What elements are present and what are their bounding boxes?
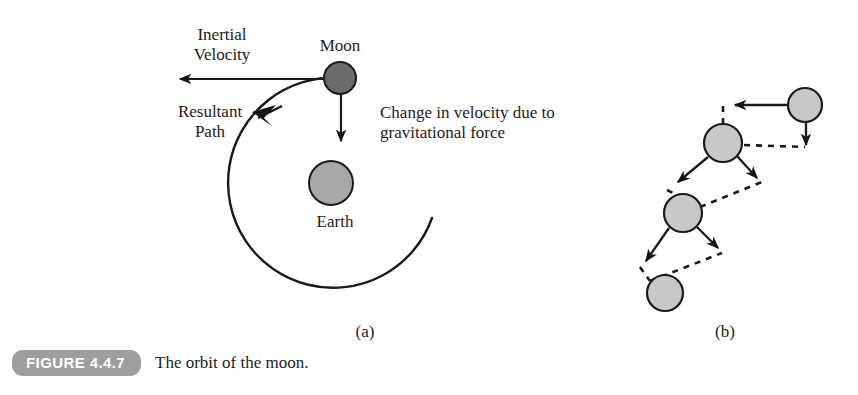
label-inertial-velocity: Inertial Velocity — [162, 25, 282, 65]
figure-caption-text: The orbit of the moon. — [155, 353, 308, 373]
panel-b-circles — [647, 88, 822, 311]
label-panel-b: (b) — [690, 322, 760, 342]
panel-b-circle-4 — [647, 275, 683, 311]
figure-orbit-of-the-moon: Inertial Velocity Resultant Path Moon Ch… — [0, 0, 858, 395]
label-moon: Moon — [300, 36, 380, 56]
figure-caption-row: FIGURE 4.4.7 The orbit of the moon. — [12, 350, 308, 376]
label-change-in-velocity: Change in velocity due to gravitational … — [380, 103, 630, 143]
panel-b-circle-2 — [704, 124, 742, 162]
panel-b-circle-1 — [788, 88, 822, 122]
figure-number-badge: FIGURE 4.4.7 — [12, 350, 141, 376]
panel-a-group — [180, 62, 432, 288]
label-earth: Earth — [295, 212, 375, 232]
earth-circle — [309, 161, 353, 205]
panel-b-group — [640, 88, 822, 311]
panel-b-circle-3 — [664, 194, 702, 232]
label-panel-a: (a) — [330, 322, 400, 342]
label-resultant-path: Resultant Path — [150, 102, 270, 142]
moon-circle — [324, 62, 356, 94]
